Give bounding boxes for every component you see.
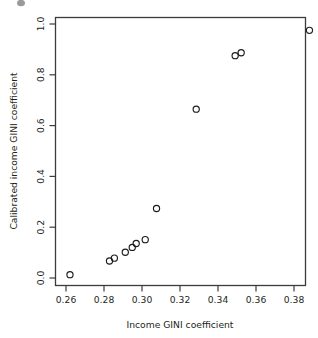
x-tick-label: 0.26: [56, 294, 77, 305]
data-point: [193, 106, 199, 112]
scan-artifact-mark: [17, 0, 25, 6]
y-tick-label: 0.6: [35, 118, 46, 133]
x-tick-label: 0.34: [208, 294, 229, 305]
data-point: [133, 240, 139, 246]
x-axis-ticks: [66, 286, 294, 292]
data-points-layer: [67, 27, 313, 278]
x-tick-label: 0.28: [94, 294, 115, 305]
data-point: [142, 237, 148, 243]
plot-canvas: 0.26 0.28 0.30 0.32 0.34 0.36 0.38 0.0 0…: [0, 0, 318, 338]
y-tick-label: 0.4: [35, 169, 46, 184]
x-tick-label: 0.36: [246, 294, 267, 305]
data-point: [153, 205, 159, 211]
data-point: [67, 272, 73, 278]
x-axis-tick-labels: 0.26 0.28 0.30 0.32 0.34 0.36 0.38: [56, 294, 305, 305]
data-point: [238, 50, 244, 56]
x-axis-title: Income GINI coefficient: [127, 319, 234, 330]
y-axis-ticks: [50, 24, 56, 278]
x-tick-label: 0.30: [132, 294, 153, 305]
data-point: [129, 244, 135, 250]
data-point: [306, 27, 312, 33]
scatter-plot-figure: 0.26 0.28 0.30 0.32 0.34 0.36 0.38 0.0 0…: [0, 0, 318, 338]
y-tick-label: 0.8: [35, 67, 46, 82]
y-tick-label: 1.0: [35, 17, 46, 32]
data-point: [232, 53, 238, 59]
data-point: [111, 255, 117, 261]
x-tick-label: 0.38: [284, 294, 305, 305]
data-point: [122, 249, 128, 255]
y-tick-label: 0.0: [35, 271, 46, 286]
plot-frame: [56, 18, 306, 286]
x-tick-label: 0.32: [170, 294, 190, 305]
y-axis-tick-labels: 0.0 0.2 0.4 0.6 0.8 1.0: [35, 17, 46, 286]
y-tick-label: 0.2: [35, 220, 46, 235]
y-axis-title: Calibrated income GINI coefficient: [8, 72, 19, 230]
